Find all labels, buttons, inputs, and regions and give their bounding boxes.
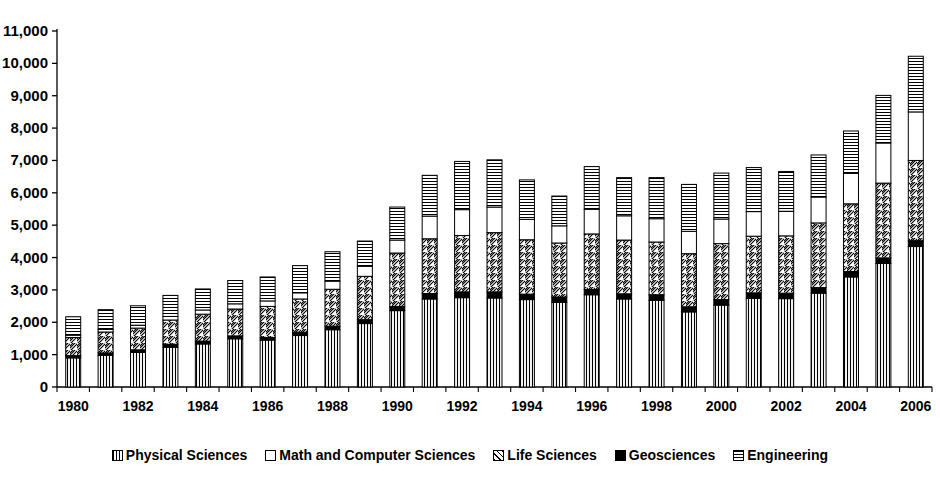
bar-segment-geosciences[interactable] <box>681 307 696 312</box>
bar-segment-life-sciences[interactable] <box>908 160 923 240</box>
bar-segment-physical-sciences[interactable] <box>487 298 502 387</box>
bar-segment-physical-sciences[interactable] <box>260 340 275 387</box>
bar-segment-life-sciences[interactable] <box>617 240 632 294</box>
bar-segment-math-and-computer-sciences[interactable] <box>325 281 340 289</box>
bar-2001[interactable] <box>746 168 761 387</box>
bar-segment-physical-sciences[interactable] <box>422 299 437 387</box>
bar-segment-geosciences[interactable] <box>584 290 599 295</box>
bar-1980[interactable] <box>66 317 81 387</box>
bar-segment-physical-sciences[interactable] <box>584 295 599 387</box>
bar-segment-math-and-computer-sciences[interactable] <box>843 173 858 203</box>
bar-segment-geosciences[interactable] <box>390 306 405 310</box>
bar-1985[interactable] <box>228 281 243 387</box>
bar-segment-physical-sciences[interactable] <box>131 352 146 387</box>
bar-segment-life-sciences[interactable] <box>584 234 599 290</box>
bar-segment-physical-sciences[interactable] <box>908 247 923 387</box>
bar-segment-physical-sciences[interactable] <box>746 298 761 387</box>
bar-segment-engineering[interactable] <box>843 131 858 173</box>
bar-segment-math-and-computer-sciences[interactable] <box>487 207 502 233</box>
bar-segment-math-and-computer-sciences[interactable] <box>552 226 567 243</box>
bar-segment-engineering[interactable] <box>228 281 243 304</box>
legend-item-geosciences[interactable]: Geosciences <box>615 448 715 462</box>
bar-segment-engineering[interactable] <box>98 310 113 330</box>
bar-segment-life-sciences[interactable] <box>260 306 275 337</box>
bar-segment-engineering[interactable] <box>681 184 696 231</box>
bar-segment-life-sciences[interactable] <box>746 236 761 293</box>
bar-segment-engineering[interactable] <box>746 168 761 212</box>
bar-segment-math-and-computer-sciences[interactable] <box>617 216 632 240</box>
bar-segment-physical-sciences[interactable] <box>325 330 340 387</box>
bar-segment-physical-sciences[interactable] <box>811 293 826 387</box>
bar-segment-life-sciences[interactable] <box>649 242 664 295</box>
bar-segment-physical-sciences[interactable] <box>390 311 405 387</box>
bar-segment-physical-sciences[interactable] <box>876 263 891 387</box>
bar-segment-engineering[interactable] <box>195 289 210 310</box>
bar-segment-life-sciences[interactable] <box>843 204 858 272</box>
bar-segment-engineering[interactable] <box>876 95 891 143</box>
bar-1994[interactable] <box>519 180 534 387</box>
bar-segment-physical-sciences[interactable] <box>357 324 372 387</box>
bar-segment-geosciences[interactable] <box>487 292 502 298</box>
bar-segment-engineering[interactable] <box>131 306 146 325</box>
bar-segment-geosciences[interactable] <box>811 288 826 294</box>
bar-segment-math-and-computer-sciences[interactable] <box>228 304 243 309</box>
bar-segment-engineering[interactable] <box>779 171 794 211</box>
bar-segment-math-and-computer-sciences[interactable] <box>649 219 664 242</box>
bar-segment-math-and-computer-sciences[interactable] <box>195 310 210 314</box>
bar-segment-physical-sciences[interactable] <box>195 344 210 387</box>
bar-2004[interactable] <box>843 131 858 387</box>
bar-segment-life-sciences[interactable] <box>98 332 113 353</box>
bar-segment-physical-sciences[interactable] <box>779 299 794 387</box>
bar-1993[interactable] <box>487 160 502 387</box>
bar-1991[interactable] <box>422 175 437 387</box>
bar-segment-life-sciences[interactable] <box>455 236 470 292</box>
bar-segment-life-sciences[interactable] <box>876 183 891 258</box>
bar-segment-life-sciences[interactable] <box>681 254 696 307</box>
bar-segment-geosciences[interactable] <box>357 320 372 324</box>
bar-1997[interactable] <box>617 178 632 387</box>
bar-segment-math-and-computer-sciences[interactable] <box>422 216 437 239</box>
bar-1999[interactable] <box>681 184 696 387</box>
legend-item-physical-sciences[interactable]: Physical Sciences <box>112 448 247 462</box>
bar-segment-physical-sciences[interactable] <box>649 300 664 387</box>
bar-1988[interactable] <box>325 252 340 387</box>
bar-1998[interactable] <box>649 178 664 387</box>
bar-segment-math-and-computer-sciences[interactable] <box>519 219 534 239</box>
bar-2002[interactable] <box>779 171 794 387</box>
bar-segment-life-sciences[interactable] <box>519 240 534 294</box>
bar-1986[interactable] <box>260 277 275 387</box>
bar-segment-geosciences[interactable] <box>422 293 437 299</box>
bar-segment-engineering[interactable] <box>163 295 178 316</box>
bar-segment-physical-sciences[interactable] <box>293 336 308 387</box>
bar-segment-engineering[interactable] <box>649 178 664 219</box>
bar-1992[interactable] <box>455 161 470 387</box>
bar-segment-math-and-computer-sciences[interactable] <box>357 266 372 276</box>
bar-segment-math-and-computer-sciences[interactable] <box>779 211 794 236</box>
bar-segment-life-sciences[interactable] <box>163 320 178 344</box>
bar-segment-engineering[interactable] <box>487 160 502 207</box>
bar-segment-math-and-computer-sciences[interactable] <box>908 112 923 161</box>
bar-2006[interactable] <box>908 56 923 387</box>
bar-segment-engineering[interactable] <box>584 167 599 210</box>
bar-segment-engineering[interactable] <box>357 241 372 266</box>
bar-segment-life-sciences[interactable] <box>390 253 405 306</box>
bar-segment-geosciences[interactable] <box>325 326 340 330</box>
bar-1990[interactable] <box>390 207 405 387</box>
bar-segment-physical-sciences[interactable] <box>163 347 178 387</box>
bar-segment-engineering[interactable] <box>455 161 470 209</box>
bar-segment-geosciences[interactable] <box>779 293 794 299</box>
bar-segment-physical-sciences[interactable] <box>228 339 243 387</box>
bar-segment-geosciences[interactable] <box>876 258 891 264</box>
bar-1995[interactable] <box>552 196 567 387</box>
bar-segment-engineering[interactable] <box>552 196 567 226</box>
bar-segment-physical-sciences[interactable] <box>455 298 470 387</box>
bar-segment-life-sciences[interactable] <box>325 289 340 326</box>
bar-segment-math-and-computer-sciences[interactable] <box>584 209 599 234</box>
bar-1996[interactable] <box>584 167 599 387</box>
bar-segment-engineering[interactable] <box>617 178 632 216</box>
bar-segment-physical-sciences[interactable] <box>66 358 81 387</box>
bar-segment-math-and-computer-sciences[interactable] <box>681 231 696 253</box>
bar-1987[interactable] <box>293 266 308 387</box>
bar-2000[interactable] <box>714 173 729 387</box>
bar-1983[interactable] <box>163 295 178 387</box>
